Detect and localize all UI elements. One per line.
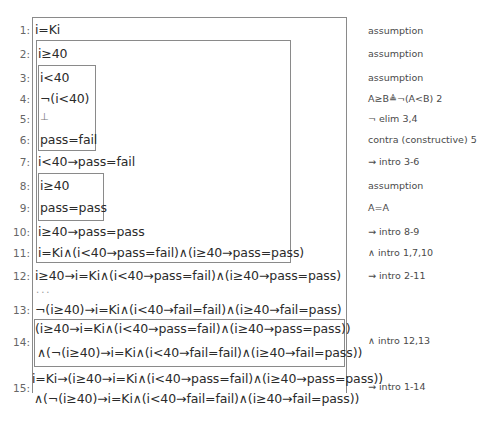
justification: assumption	[368, 25, 423, 36]
formula: i=Ki∧(i<40→pass=fail)∧(i≥40→pass=pass)	[38, 245, 304, 260]
line-number: 5:	[4, 113, 30, 125]
justification: A≥B≜¬(A<B) 2	[368, 93, 442, 104]
line-number: 10:	[4, 226, 30, 238]
justification: → intro 3-6	[368, 156, 419, 167]
line-number: 8:	[4, 180, 30, 192]
line-number: 11:	[4, 247, 30, 259]
line-number: 12:	[4, 270, 30, 282]
line-number: 15:	[4, 382, 30, 394]
justification: assumption	[368, 48, 423, 59]
line-number: 4:	[4, 93, 30, 105]
line-number: 13:	[4, 304, 30, 316]
ellipsis: ...	[36, 284, 52, 295]
justification: assumption	[368, 180, 423, 191]
formula: i<40	[40, 70, 69, 85]
line-number: 14:	[4, 336, 30, 348]
justification: → intro 2-11	[368, 270, 425, 281]
line-number: 1:	[4, 24, 30, 36]
line-number: 7:	[4, 156, 30, 168]
formula: ⊥	[40, 111, 49, 122]
outer-subproof-box-bottom	[32, 367, 347, 368]
justification: → intro 8-9	[368, 226, 419, 237]
justification: ¬ elim 3,4	[368, 113, 418, 124]
formula: i<40→pass=fail	[38, 154, 135, 169]
formula: i=Ki	[35, 22, 60, 37]
formula: ¬(i≥40)→i=Ki∧(i<40→fail=fail)∧(i≥40→fail…	[35, 302, 342, 317]
formula: i≥40	[38, 46, 67, 61]
justification: assumption	[368, 72, 423, 83]
justification: ∧ intro 12,13	[368, 335, 430, 346]
line-number: 9:	[4, 202, 30, 214]
formula: i≥40→i=Ki∧(i<40→pass=fail)∧(i≥40→pass=pa…	[35, 268, 341, 283]
formula: (i≥40→i=Ki∧(i<40→pass=fail)∧(i≥40→pass=p…	[35, 321, 350, 336]
formula: pass=pass	[40, 200, 107, 215]
formula: pass=fail	[40, 132, 97, 147]
justification: → intro 1-14	[368, 381, 425, 392]
line-number: 2:	[4, 48, 30, 60]
justification: ∧ intro 1,7,10	[368, 247, 433, 258]
justification: contra (constructive) 5	[368, 134, 477, 145]
justification: A=A	[368, 202, 389, 213]
line-number: 3:	[4, 72, 30, 84]
line-number: 6:	[4, 134, 30, 146]
formula: i≥40→pass=pass	[38, 224, 145, 239]
formula-continuation: ∧(¬(i≥40)→i=Ki∧(i<40→fail=fail)∧(i≥40→fa…	[37, 345, 362, 360]
formula: ¬(i<40)	[40, 91, 89, 106]
formula-continuation: ∧(¬(i≥40)→i=Ki∧(i<40→fail=fail)∧(i≥40→fa…	[34, 391, 359, 406]
formula: i=Ki→(i≥40→i=Ki∧(i<40→pass=fail)∧(i≥40→p…	[32, 371, 383, 386]
formula: i≥40	[40, 178, 69, 193]
